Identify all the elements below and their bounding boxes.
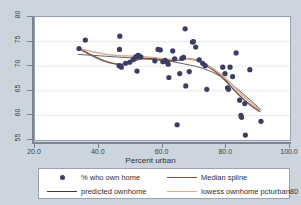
x-tick-label: 20.0 xyxy=(20,148,48,155)
y-tick-mark xyxy=(27,65,32,66)
scatter-point xyxy=(183,83,188,88)
y-tick-mark xyxy=(27,114,32,115)
x-tick-label: 100.0 xyxy=(275,148,301,155)
scatter-point xyxy=(138,54,143,59)
legend-entry-own-home: % who own home xyxy=(43,170,140,184)
y-axis-line xyxy=(32,16,34,142)
legend-entry-median-spline: Median spline xyxy=(163,170,247,184)
x-axis-title: Percent urban xyxy=(6,156,295,165)
scatter-point xyxy=(183,26,188,31)
y-tick-label: 60 xyxy=(14,104,21,122)
scatter-point xyxy=(258,119,263,124)
scatter-point xyxy=(152,58,157,63)
y-tick-label: 65 xyxy=(14,79,21,97)
legend-entry-lowess-ownhome: lowess ownhome pcturban80 xyxy=(163,184,298,198)
scatter-point xyxy=(166,75,171,80)
scatter-point xyxy=(203,63,208,68)
scatter-point xyxy=(175,122,180,127)
scatter-point xyxy=(83,38,88,43)
scatter-point xyxy=(220,65,225,70)
scatter-point xyxy=(181,55,186,60)
scatter-point xyxy=(237,98,242,103)
y-tick-label: 55 xyxy=(14,129,21,147)
plot-region xyxy=(34,16,291,141)
graph-canvas: 556065707580 20.040.060.080.0100.0 Perce… xyxy=(6,4,295,201)
scatter-point xyxy=(170,48,175,53)
x-tick-label: 40.0 xyxy=(84,148,112,155)
scatter-point xyxy=(76,46,81,51)
legend-line-tan-icon xyxy=(163,191,201,192)
y-tick-label: 75 xyxy=(14,30,21,48)
scatter-point xyxy=(247,67,252,72)
y-tick-mark xyxy=(27,139,32,140)
scatter-point xyxy=(187,69,192,74)
scatter-point xyxy=(204,87,209,92)
legend-label-own-home: % who own home xyxy=(81,173,140,182)
scatter-point xyxy=(239,115,244,120)
y-tick-label: 80 xyxy=(14,6,21,24)
screenshot-stage: 556065707580 20.040.060.080.0100.0 Perce… xyxy=(0,0,301,205)
scatter-point xyxy=(227,65,232,70)
y-tick-mark xyxy=(27,41,32,42)
scatter-point xyxy=(234,50,239,55)
legend-row-2: predicted ownhome lowess ownhome pcturba… xyxy=(39,184,289,198)
scatter-point xyxy=(226,87,231,92)
scatter-point xyxy=(117,47,122,52)
x-tick-label: 80.0 xyxy=(211,148,239,155)
scatter-point xyxy=(230,74,235,79)
y-tick-label: 70 xyxy=(14,55,21,73)
scatter-point xyxy=(172,56,177,61)
scatter-point xyxy=(166,62,171,67)
legend-marker-circle-icon xyxy=(43,175,81,180)
scatter-point xyxy=(117,34,122,39)
legend-line-maroon-icon xyxy=(163,177,201,178)
scatter-point xyxy=(222,71,227,76)
legend-row-1: % who own home Median spline xyxy=(39,170,289,184)
scatter-plot-svg xyxy=(35,17,290,140)
scatter-point xyxy=(134,69,139,74)
scatter-point xyxy=(158,47,163,52)
legend-entry-predicted-ownhome: predicted ownhome xyxy=(43,184,146,198)
legend-line-dark-icon xyxy=(43,191,81,192)
x-tick-label: 60.0 xyxy=(148,148,176,155)
chart-legend: % who own home Median spline predicted o… xyxy=(38,168,290,199)
scatter-point xyxy=(193,44,198,49)
y-tick-mark xyxy=(27,90,32,91)
scatter-point xyxy=(119,65,124,70)
scatter-point xyxy=(243,132,248,137)
scatter-point xyxy=(191,39,196,44)
y-tick-mark xyxy=(27,16,32,17)
legend-label-predicted-ownhome: predicted ownhome xyxy=(81,187,146,196)
legend-label-median-spline: Median spline xyxy=(201,173,247,182)
scatter-point xyxy=(177,71,182,76)
legend-label-lowess-ownhome: lowess ownhome pcturban80 xyxy=(201,187,298,196)
scatter-point xyxy=(242,101,247,106)
